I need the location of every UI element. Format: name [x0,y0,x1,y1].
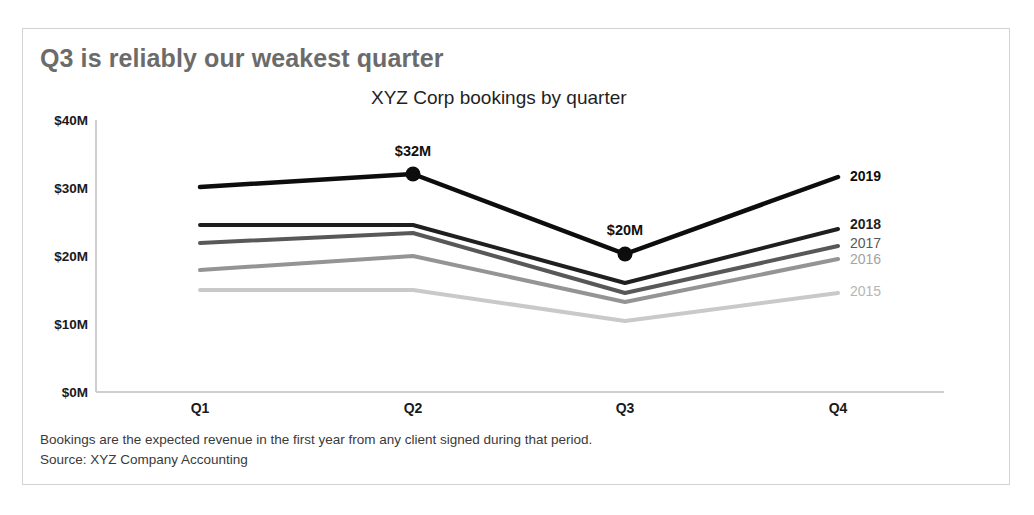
slide-canvas: Q3 is reliably our weakest quarter XYZ C… [0,0,1034,515]
series-label-2015: 2015 [850,283,881,299]
data-label-q3-2019: $20M [580,222,670,238]
x-axis-tick-q2: Q2 [383,400,443,416]
series-label-2016: 2016 [850,251,881,267]
x-axis-tick-q4: Q4 [808,400,868,416]
footnote-description: Bookings are the expected revenue in the… [40,432,592,447]
data-label-q2-2019: $32M [368,143,458,159]
footnote-source: Source: XYZ Company Accounting [40,452,248,467]
series-line-2015 [200,290,838,321]
series-label-2019: 2019 [850,168,881,184]
y-axis-tick-10m: $10M [32,317,88,332]
x-axis-tick-q1: Q1 [170,400,230,416]
x-axis-tick-q3: Q3 [595,400,655,416]
data-point-marker-q3-2019 [618,247,633,262]
series-label-2017: 2017 [850,235,881,251]
y-axis-tick-40m: $40M [32,113,88,128]
y-axis-tick-30m: $30M [32,181,88,196]
series-line-2018 [200,225,838,283]
series-line-2019 [200,174,838,254]
y-axis-tick-0m: $0M [32,385,88,400]
series-label-2018: 2018 [850,216,881,232]
y-axis-tick-20m: $20M [32,249,88,264]
data-point-marker-q2-2019 [406,167,421,182]
